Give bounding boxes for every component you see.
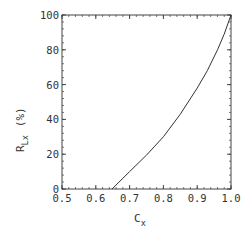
y-tick-label: 80 bbox=[46, 44, 59, 56]
y-tick-label: 100 bbox=[40, 9, 59, 21]
x-tick-labels: 0.50.60.70.80.91.0 bbox=[53, 192, 241, 204]
chart: 0.50.60.70.80.91.0 020406080100 Cx RLx(%… bbox=[0, 0, 249, 238]
x-axis-label: Cx bbox=[134, 212, 146, 228]
y-tick-label: 0 bbox=[53, 183, 59, 195]
y-tick-labels: 020406080100 bbox=[40, 9, 59, 195]
data-series-line bbox=[112, 15, 231, 189]
y-tick-label: 40 bbox=[46, 113, 59, 125]
x-tick-label: 1.0 bbox=[222, 192, 241, 204]
x-tick-label: 0.7 bbox=[120, 192, 139, 204]
major-ticks bbox=[62, 15, 231, 189]
x-tick-label: 0.6 bbox=[86, 192, 105, 204]
minor-ticks bbox=[62, 15, 231, 189]
y-axis-label: RLx(%) bbox=[14, 107, 30, 152]
y-tick-label: 60 bbox=[46, 79, 59, 91]
y-tick-label: 20 bbox=[46, 148, 59, 160]
x-tick-label: 0.9 bbox=[188, 192, 207, 204]
plot-frame bbox=[62, 15, 231, 189]
x-tick-label: 0.8 bbox=[154, 192, 173, 204]
